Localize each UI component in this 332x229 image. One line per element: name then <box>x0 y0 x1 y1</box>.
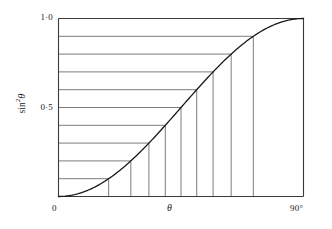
x-axis-title-theta: θ <box>167 202 172 213</box>
sin-squared-theta-plot <box>0 0 332 229</box>
x-axis-tick-label-ninety-degrees: 90° <box>290 203 303 213</box>
y-axis-title-sin-squared-theta: sin2θ <box>16 74 27 134</box>
x-axis-tick-label-zero: 0 <box>52 203 57 213</box>
y-axis-title-theta-symbol: θ <box>16 94 27 99</box>
figure-root: 1·0 0·5 0 θ 90° sin2θ <box>0 0 332 229</box>
y-axis-tick-label-1-0: 1·0 <box>40 12 53 22</box>
y-axis-title-sin-text: sin <box>17 102 27 113</box>
y-axis-title-exponent: 2 <box>14 99 22 103</box>
y-axis-tick-label-0-5: 0·5 <box>40 102 53 112</box>
